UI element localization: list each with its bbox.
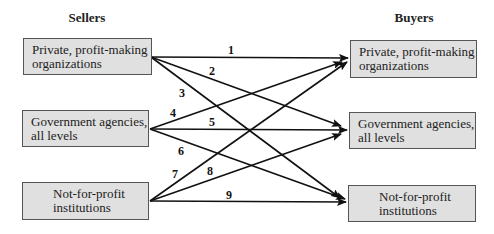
arrow-5 <box>150 129 347 130</box>
seller-government-box: Government agencies, all levels <box>22 110 149 147</box>
seller-nonprofit-line1: Not-for-profit <box>53 187 140 201</box>
buyer-government-line1: Government agencies, <box>358 117 467 131</box>
seller-nonprofit-box: Not-for-profit institutions <box>22 182 149 220</box>
seller-private-line2: organizations <box>32 57 143 71</box>
link-label-2: 2 <box>209 65 215 77</box>
link-label-9: 9 <box>226 189 232 201</box>
buyer-government-line2: all levels <box>358 131 467 145</box>
link-label-1: 1 <box>228 44 234 56</box>
link-label-8: 8 <box>207 165 213 177</box>
seller-government-line1: Government agencies, <box>31 115 140 129</box>
link-label-5: 5 <box>209 116 215 128</box>
link-label-6: 6 <box>178 145 184 157</box>
arrow-1 <box>151 57 348 58</box>
seller-private-line1: Private, profit-making <box>32 43 143 57</box>
buyer-government-box: Government agencies, all levels <box>349 112 476 149</box>
seller-private-box: Private, profit-making organizations <box>23 38 152 75</box>
link-label-4: 4 <box>170 107 176 119</box>
buyer-nonprofit-box: Not-for-profit institutions <box>348 185 476 222</box>
arrow-9 <box>150 201 346 202</box>
arrow-6 <box>150 129 345 199</box>
buyer-private-line1: Private, profit-making <box>359 45 468 59</box>
buyer-nonprofit-line2: institutions <box>379 204 467 218</box>
link-label-7: 7 <box>172 168 178 180</box>
buyer-private-box: Private, profit-making organizations <box>350 40 477 78</box>
arrow-7 <box>150 62 347 201</box>
link-label-3: 3 <box>179 87 185 99</box>
buyer-private-line2: organizations <box>359 59 468 73</box>
arrow-3 <box>151 57 340 198</box>
seller-government-line2: all levels <box>31 129 140 143</box>
buyer-nonprofit-line1: Not-for-profit <box>379 190 467 204</box>
seller-nonprofit-line2: institutions <box>53 201 140 215</box>
